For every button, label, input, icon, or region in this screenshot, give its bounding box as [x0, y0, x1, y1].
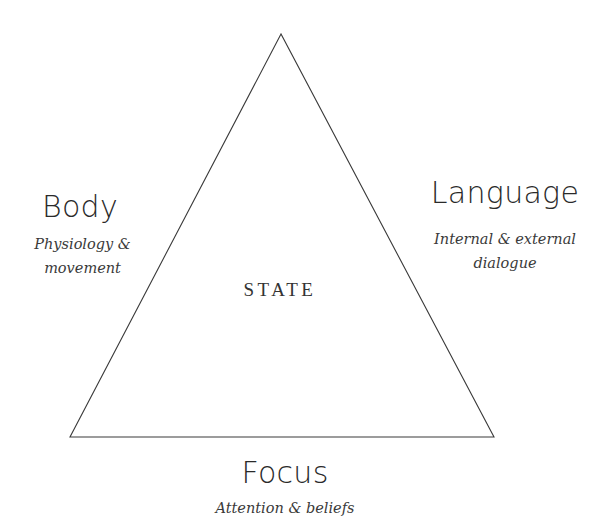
body-title: Body — [10, 190, 150, 224]
state-triangle-diagram: Body Physiology & movement Language Inte… — [0, 0, 607, 528]
focus-title: Focus — [200, 456, 370, 490]
language-subtitle-line2: dialogue — [410, 251, 600, 275]
center-state-label: STATE — [200, 279, 360, 301]
body-subtitle-line1: Physiology & — [0, 232, 165, 256]
body-subtitle-line2: movement — [0, 256, 165, 280]
focus-subtitle: Attention & beliefs — [180, 496, 390, 520]
language-subtitle-line1: Internal & external — [410, 227, 600, 251]
language-title: Language — [410, 176, 600, 210]
